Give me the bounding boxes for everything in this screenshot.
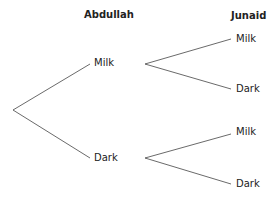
branch-label-junaid-milk-2: Milk [236,126,256,137]
branch-label-junaid-dark-1: Dark [236,83,260,94]
branch-label-abdullah-dark: Dark [94,152,118,163]
branch-label-abdullah-milk: Milk [94,57,114,68]
header-abdullah: Abdullah [84,9,134,20]
header-junaid: Junaid [231,10,266,21]
branch-label-junaid-milk-1: Milk [236,33,256,44]
tree-diagram-lines [0,0,269,198]
branch-label-junaid-dark-2: Dark [236,178,260,189]
